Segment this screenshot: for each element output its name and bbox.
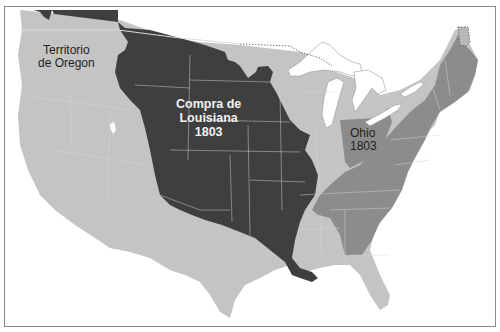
louisiana-purchase-label: Compra de Louisiana 1803 — [176, 97, 241, 139]
louisiana-label-line1: Compra de — [176, 97, 241, 111]
louisiana-label-line3: 1803 — [176, 125, 241, 139]
ohio-label-line2: 1803 — [350, 140, 377, 153]
oregon-label-line2: de Oregon — [38, 57, 95, 70]
oregon-territory-label: Territorio de Oregon — [38, 44, 95, 70]
chesapeake-bay — [428, 138, 436, 160]
maine-tip — [458, 27, 470, 46]
ohio-label: Ohio 1803 — [350, 127, 377, 153]
louisiana-label-line2: Louisiana — [176, 111, 241, 125]
